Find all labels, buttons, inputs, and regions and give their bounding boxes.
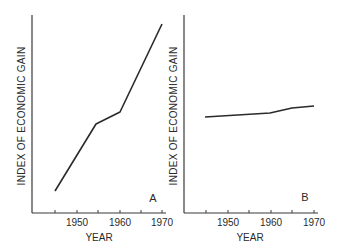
panel-a: 1950 1960 1970 YEAR INDEX OF ECONOMIC GA… xyxy=(16,15,174,243)
panel-label-b: B xyxy=(301,191,308,203)
x-axis-label-a: YEAR xyxy=(85,232,112,243)
panel-label-a: A xyxy=(149,192,157,204)
tick-label-1960-a: 1960 xyxy=(109,217,132,228)
y-axis-label-b: INDEX OF ECONOMIC GAIN xyxy=(168,47,179,186)
tick-label-1970-a: 1970 xyxy=(151,217,174,228)
figure: 1950 1960 1970 YEAR INDEX OF ECONOMIC GA… xyxy=(0,0,339,250)
tick-label-1950-b: 1950 xyxy=(217,217,240,228)
x-axis-label-b: YEAR xyxy=(236,232,263,243)
tick-label-1970-b: 1970 xyxy=(303,217,326,228)
panel-b: 1950 1960 1970 YEAR INDEX OF ECONOMIC GA… xyxy=(168,15,326,243)
tick-label-1950-a: 1950 xyxy=(66,217,89,228)
y-axis-label-a: INDEX OF ECONOMIC GAIN xyxy=(16,47,27,186)
series-line-b xyxy=(205,106,314,117)
tick-label-1960-b: 1960 xyxy=(260,217,283,228)
series-line-a xyxy=(55,24,162,191)
